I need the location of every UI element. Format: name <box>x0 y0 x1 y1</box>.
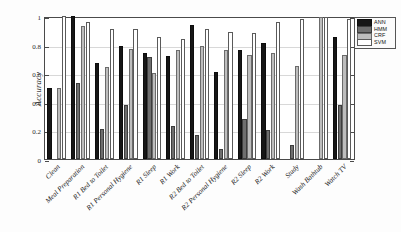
bar <box>129 49 133 159</box>
bar <box>338 105 342 159</box>
plot-area: 00.20.40.60.81 Accuracy <box>44 17 355 160</box>
bar <box>171 126 175 159</box>
bar <box>347 19 351 159</box>
bar-group <box>306 18 330 159</box>
bar-group <box>330 18 354 159</box>
bar <box>224 50 228 159</box>
y-axis-label: Accuracy <box>33 71 43 106</box>
x-tick-label: R2 Work <box>254 163 277 186</box>
bar <box>276 22 280 159</box>
y-tick-label: 0.8 <box>32 43 41 51</box>
x-tick-label: R1 Work <box>158 163 181 186</box>
bar <box>95 63 99 159</box>
y-tick-label: 0.2 <box>32 128 41 136</box>
bar <box>110 29 114 159</box>
bar <box>295 66 299 159</box>
bar-groups <box>45 18 354 159</box>
bar <box>152 73 156 159</box>
y-tick-mark <box>350 161 354 162</box>
legend-label: ANN <box>374 20 386 25</box>
bar-group <box>140 18 164 159</box>
bar <box>238 50 242 159</box>
bar <box>62 16 66 159</box>
bar <box>300 19 304 159</box>
bar-group <box>45 18 69 159</box>
bar <box>157 37 161 159</box>
bar <box>47 88 51 160</box>
bar-group <box>93 18 117 159</box>
y-tick-label: 0 <box>38 157 42 165</box>
bar <box>261 43 265 159</box>
bar <box>200 46 204 159</box>
bar-group <box>235 18 259 159</box>
bar <box>124 105 128 159</box>
bar <box>176 50 180 159</box>
bar <box>214 72 218 159</box>
bar <box>333 37 337 159</box>
bar <box>166 56 170 159</box>
bar <box>147 57 151 159</box>
bar <box>324 17 328 159</box>
bar <box>266 130 270 159</box>
bar-group <box>69 18 93 159</box>
bar <box>133 29 137 159</box>
x-tick-label: R1 Personal Hygiene <box>85 163 134 212</box>
bar <box>290 145 294 159</box>
chart-legend: ANNHMMCRFSVM <box>354 17 396 49</box>
figure-bar-chart: 00.20.40.60.81 Accuracy CleanMeal Prepar… <box>0 0 401 232</box>
bar <box>190 25 194 159</box>
bar <box>100 129 104 159</box>
bar <box>219 149 223 159</box>
bar <box>195 135 199 159</box>
bar <box>81 26 85 159</box>
bar <box>181 39 185 159</box>
bar <box>228 32 232 159</box>
legend-item: SVM <box>357 40 393 46</box>
bar <box>105 67 109 159</box>
bar <box>242 119 246 159</box>
bar-group <box>164 18 188 159</box>
bar <box>86 22 90 159</box>
bar <box>247 55 251 159</box>
bar-group <box>188 18 212 159</box>
legend-swatch <box>357 39 372 46</box>
bar <box>252 33 256 159</box>
bar <box>119 46 123 159</box>
x-tick-label: R2 Sleep <box>230 163 254 187</box>
x-tick-label: Clean <box>44 163 62 181</box>
x-tick-label: R2 Personal Hygiene <box>180 163 229 212</box>
y-tick-label: 1 <box>38 14 42 22</box>
bar-group <box>116 18 140 159</box>
bar-group <box>211 18 235 159</box>
bar <box>57 88 61 160</box>
y-tick-mark <box>45 161 49 162</box>
bar <box>342 55 346 159</box>
bar <box>271 53 275 159</box>
bar-group <box>259 18 283 159</box>
bar <box>143 53 147 159</box>
bar <box>71 16 75 159</box>
bar <box>76 83 80 159</box>
bar <box>205 29 209 159</box>
bar-group <box>283 18 307 159</box>
x-tick-label: Watch TV <box>323 163 348 188</box>
x-tick-label: Study <box>284 163 301 180</box>
x-tick-label: R1 Sleep <box>134 163 158 187</box>
legend-label: SVM <box>374 40 386 45</box>
bar <box>319 17 323 159</box>
